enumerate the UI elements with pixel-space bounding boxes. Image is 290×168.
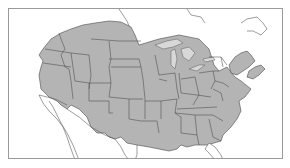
- range-map: [9, 9, 283, 159]
- species-range: [39, 21, 251, 151]
- florida: [205, 143, 223, 159]
- map-frame: [8, 8, 283, 159]
- species-range-nova-scotia: [247, 65, 265, 79]
